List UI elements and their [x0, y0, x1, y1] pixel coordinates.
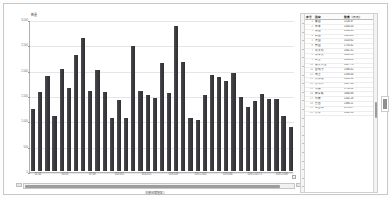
- table-vertical-scrollbar[interactable]: [373, 14, 377, 192]
- bar[interactable]: [67, 88, 71, 171]
- y-tick-mark: [28, 122, 30, 123]
- gutter-row-marker: [302, 92, 304, 93]
- gutter-row-marker: [302, 169, 304, 170]
- bar[interactable]: [38, 92, 42, 171]
- bar[interactable]: [246, 107, 250, 171]
- x-tick-label: 023-026: [223, 174, 233, 177]
- chart-horizontal-scrollbar[interactable]: [23, 183, 295, 189]
- y-tick-mark: [28, 97, 30, 98]
- gutter-row-marker: [302, 143, 304, 144]
- plot-area: 3,0002,5002,0001,5001,0005000: [29, 21, 293, 173]
- data-table-panel[interactable]: 序号 国家 数量（万元） 1美国1226.372日本1434.503德国1864…: [300, 13, 378, 193]
- x-tick-label: 07-08: [89, 174, 96, 177]
- bar[interactable]: [281, 116, 285, 171]
- bar[interactable]: [181, 62, 185, 171]
- y-tick-label: 2,500: [21, 45, 28, 48]
- y-tick-mark: [28, 72, 30, 73]
- chart-report-screen: 数量 3,0002,5002,0001,5001,0005000 01-0204…: [0, 0, 391, 198]
- bar[interactable]: [60, 69, 64, 171]
- y-tick-mark: [28, 148, 30, 149]
- bar[interactable]: [174, 26, 178, 171]
- bar[interactable]: [131, 46, 135, 171]
- bar-chart-panel: 数量 3,0002,5002,0001,5001,0005000 01-0204…: [13, 13, 296, 193]
- gutter-row-marker: [302, 152, 304, 153]
- x-tick-label: 018-019: [169, 174, 179, 177]
- bar[interactable]: [88, 91, 92, 171]
- gutter-row-marker: [302, 23, 304, 24]
- bar[interactable]: [45, 76, 49, 171]
- gutter-row-marker: [302, 126, 304, 127]
- bar[interactable]: [253, 101, 257, 171]
- x-tick-label: 010-011: [115, 174, 124, 177]
- bar[interactable]: [289, 127, 293, 171]
- bar[interactable]: [103, 92, 107, 171]
- bar[interactable]: [138, 91, 142, 171]
- gutter-row-marker: [302, 135, 304, 136]
- gutter-row-marker: [302, 178, 304, 179]
- y-tick-label: 1,000: [21, 121, 28, 124]
- gutter-row-marker: [302, 75, 304, 76]
- gutter-row-marker: [302, 109, 304, 110]
- bar[interactable]: [74, 55, 78, 171]
- bar[interactable]: [231, 73, 235, 171]
- gutter-row-marker: [302, 186, 304, 187]
- gutter-row-marker: [302, 49, 304, 50]
- page-scroll-thumb[interactable]: [383, 99, 387, 109]
- gutter-row-marker: [302, 32, 304, 33]
- x-tick-label: 014-015: [142, 174, 152, 177]
- gutter-row-marker: [302, 57, 304, 58]
- y-tick-label: 3,000: [21, 20, 28, 23]
- bar[interactable]: [217, 77, 221, 171]
- bar[interactable]: [196, 120, 200, 171]
- gutter-row-marker: [302, 83, 304, 84]
- bar[interactable]: [167, 93, 171, 171]
- table-scrollbar-thumb[interactable]: [375, 102, 378, 118]
- cell-country: 南非: [314, 111, 343, 116]
- bar[interactable]: [153, 98, 157, 171]
- gutter-row-marker: [302, 40, 304, 41]
- bar[interactable]: [224, 81, 228, 171]
- cell-value: 1062.36: [343, 111, 375, 116]
- bar[interactable]: [188, 118, 192, 171]
- gutter-row-marker: [302, 161, 304, 162]
- bar[interactable]: [52, 116, 56, 171]
- table-row[interactable]: 20南非1062.36: [305, 111, 375, 116]
- x-tick-label: 028-1-030: [276, 174, 288, 177]
- y-tick-label: 0: [27, 172, 29, 175]
- scrollbar-thumb[interactable]: [25, 185, 280, 188]
- y-tick-label: 500: [24, 146, 28, 149]
- bar[interactable]: [160, 63, 164, 171]
- gutter-row-marker: [302, 66, 304, 67]
- report-frame: 数量 3,0002,5002,0001,5001,0005000 01-0204…: [3, 3, 388, 195]
- bar[interactable]: [110, 118, 114, 171]
- x-axis-title: 注册国家(地区): [13, 192, 296, 195]
- bar[interactable]: [81, 38, 85, 171]
- gutter-row-marker: [302, 100, 304, 101]
- y-tick-label: 2,000: [21, 70, 28, 73]
- scroll-left-button[interactable]: ‹: [16, 183, 22, 187]
- bar[interactable]: [260, 94, 264, 171]
- bar[interactable]: [274, 99, 278, 171]
- bar-series: [31, 20, 293, 171]
- bar[interactable]: [117, 100, 121, 171]
- bar[interactable]: [124, 118, 128, 171]
- bar[interactable]: [239, 97, 243, 171]
- x-axis-tick-labels: 01-0204-0507-08010-011014-015018-019020-…: [30, 174, 294, 181]
- page-scroll-widget[interactable]: [381, 96, 389, 112]
- bar[interactable]: [203, 95, 207, 172]
- bar[interactable]: [146, 95, 150, 172]
- x-tick-label: 026-1-027-1: [248, 174, 262, 177]
- data-table: 序号 国家 数量（万元） 1美国1226.372日本1434.503德国1864…: [305, 14, 375, 116]
- y-tick-mark: [28, 46, 30, 47]
- y-tick-label: 1,500: [21, 96, 28, 99]
- bar[interactable]: [31, 109, 35, 171]
- gutter-row-marker: [302, 118, 304, 119]
- bar[interactable]: [267, 99, 271, 171]
- x-tick-label: 020-1-022: [195, 174, 207, 177]
- x-tick-label: 04-05: [62, 174, 69, 177]
- x-tick-label: 01-02: [35, 174, 42, 177]
- bar[interactable]: [95, 70, 99, 171]
- bar[interactable]: [210, 75, 214, 171]
- y-axis-title: 数量: [31, 14, 37, 17]
- chart-resize-handle[interactable]: [292, 175, 296, 179]
